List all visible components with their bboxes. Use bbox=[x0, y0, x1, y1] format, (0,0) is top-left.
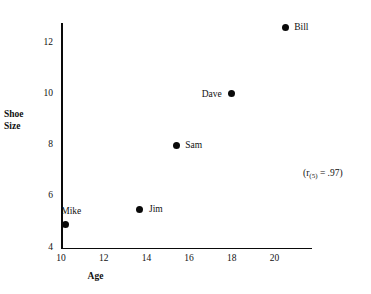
y-tick-label: 6 bbox=[31, 191, 53, 201]
correlation-subscript: (5) bbox=[309, 172, 317, 180]
data-point bbox=[228, 90, 235, 97]
x-axis-title: Age bbox=[0, 271, 371, 281]
data-point bbox=[136, 206, 143, 213]
correlation-suffix: = .97) bbox=[318, 168, 343, 178]
data-point-label: Sam bbox=[185, 141, 202, 151]
y-tick-label: 12 bbox=[31, 38, 53, 48]
y-axis-title: Shoe Size bbox=[4, 109, 24, 132]
data-point-label: Jim bbox=[149, 205, 163, 215]
data-point-label: Mike bbox=[61, 207, 81, 217]
y-axis-title-line-1: Shoe bbox=[4, 109, 24, 121]
x-tick-label: 12 bbox=[92, 254, 116, 264]
x-tick-label: 16 bbox=[177, 254, 201, 264]
y-tick-label: 4 bbox=[31, 243, 53, 253]
data-point-label: Bill bbox=[294, 23, 308, 33]
data-point bbox=[282, 24, 289, 31]
data-point bbox=[173, 142, 180, 149]
y-tick-label: 8 bbox=[31, 140, 53, 150]
scatter-plot-figure: 1210864 101214161820 Shoe Size Age MikeJ… bbox=[0, 0, 371, 294]
x-tick-label: 14 bbox=[134, 254, 158, 264]
data-point-label: Dave bbox=[202, 90, 222, 100]
y-axis-title-line-2: Size bbox=[4, 121, 24, 133]
data-point bbox=[62, 221, 69, 228]
correlation-annotation: (r(5) = .97) bbox=[303, 168, 343, 180]
x-tick-label: 20 bbox=[263, 254, 287, 264]
x-axis-line bbox=[61, 248, 312, 250]
x-tick-label: 10 bbox=[49, 254, 73, 264]
y-tick-label: 10 bbox=[31, 89, 53, 99]
x-axis-title-text: Age bbox=[88, 271, 104, 281]
x-tick-label: 18 bbox=[220, 254, 244, 264]
